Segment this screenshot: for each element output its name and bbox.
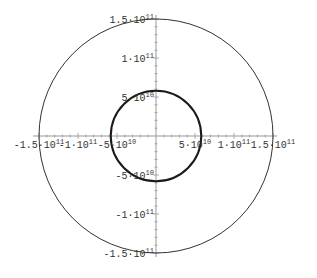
x-tick-label: -1·1011 bbox=[59, 138, 97, 151]
y-tick-label: 5·1010 bbox=[122, 91, 154, 104]
y-tick-label: -1.5·1011 bbox=[104, 247, 154, 260]
y-tick-label: 1.5·1011 bbox=[110, 13, 154, 26]
y-tick-label: 1·1011 bbox=[122, 52, 154, 65]
x-tick-label: -1.5·1011 bbox=[14, 138, 64, 151]
parametric-plot: -1.5·1011-1·1011-5·10105·10101·10111.5·1… bbox=[0, 0, 317, 278]
x-tick-label: 5·1010 bbox=[179, 138, 211, 151]
x-tick-label: 1.5·1011 bbox=[251, 138, 295, 151]
y-tick-label: -1·1011 bbox=[116, 208, 154, 221]
axes bbox=[33, 15, 277, 257]
x-tick-label: -5·1010 bbox=[98, 138, 136, 151]
x-tick-label: 1·1011 bbox=[218, 138, 250, 151]
